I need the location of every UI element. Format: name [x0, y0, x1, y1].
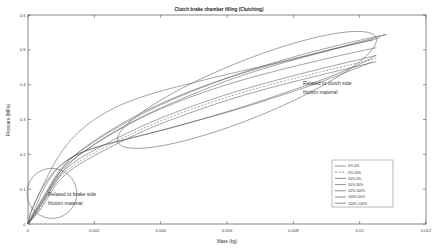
annotation-brake-side: Related to brake side friction material: [48, 191, 96, 206]
x-axis-label-group: Mass (kg): [217, 239, 238, 244]
page-title: Clutch brake chamber filling (Clutching): [174, 7, 264, 12]
chart-legend[interactable]: 0%-0%0%-50%50%-0%50%-50%50%-100%100%-50%…: [332, 160, 393, 207]
y-tick-label: 0.6: [20, 13, 26, 18]
legend-item-label[interactable]: 0%-50%: [348, 171, 361, 175]
annotation-clutch-side: Related to clutch side friction material: [303, 80, 352, 95]
y-tick-label: 0.4: [20, 82, 26, 87]
x-tick-label: 0.012: [421, 228, 432, 233]
plot-title-group: Clutch brake chamber filling (Clutching): [174, 7, 264, 12]
chart-svg: Clutch brake chamber filling (Clutching)…: [0, 0, 438, 251]
legend-item-label[interactable]: 50%-0%: [348, 177, 361, 181]
y-tick-label: 0.2: [20, 152, 26, 157]
clutch-side-ellipse: [107, 11, 387, 168]
legend-item-label[interactable]: 0%-0%: [348, 164, 359, 168]
y-tick-label: 0: [23, 222, 26, 227]
y-tick-label: 0.1: [20, 187, 26, 192]
y-axis-label-group: Pressure (MPa): [6, 103, 11, 136]
x-axis-label: Mass (kg): [217, 239, 238, 244]
clutch-annotation-line1: Related to clutch side: [303, 80, 352, 86]
chart-figure: Clutch brake chamber filling (Clutching)…: [0, 0, 438, 251]
x-tick-label: 0.01: [356, 228, 365, 233]
brake-annotation-line2: friction material: [48, 200, 83, 206]
x-tick-label: 0.004: [155, 228, 166, 233]
legend-item-label[interactable]: 50%-100%: [348, 189, 365, 193]
clutch-annotation-line2: friction material: [303, 89, 338, 95]
x-tick-label: 0.002: [89, 228, 100, 233]
x-tick-label: 0.008: [288, 228, 299, 233]
y-axis-label: Pressure (MPa): [6, 103, 11, 136]
legend-item-label[interactable]: 100%-50%: [348, 195, 365, 199]
x-tick-label: 0: [27, 228, 30, 233]
y-tick-label: 0.3: [20, 117, 26, 122]
legend-item-label[interactable]: 100%-100%: [348, 202, 367, 206]
x-tick-label: 0.006: [222, 228, 233, 233]
legend-item-label[interactable]: 50%-50%: [348, 183, 363, 187]
brake-annotation-line1: Related to brake side: [48, 191, 96, 197]
y-tick-label: 0.5: [20, 47, 26, 52]
